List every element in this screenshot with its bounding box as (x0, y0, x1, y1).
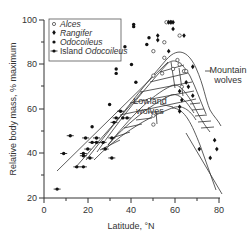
x-tick-labels: 0 20 40 60 80 (41, 205, 224, 215)
data-point-odocoileus (134, 81, 137, 84)
data-point-alces (178, 34, 181, 37)
data-point-alces (160, 72, 163, 75)
lowland-label-2: wolves (135, 106, 164, 116)
ytick-80: 80 (27, 59, 37, 69)
data-point-odocoileus (147, 36, 150, 39)
data-point-rangifer (156, 33, 160, 38)
data-point-odocoileus (108, 103, 111, 106)
trend-lines (57, 62, 222, 194)
data-point-alces (178, 63, 181, 66)
data-point-island-odocoileus (60, 152, 67, 155)
annotations: Mountain wolves Lowland wolves (133, 65, 246, 116)
data-point-rangifer (182, 33, 186, 38)
data-point-rangifer (156, 38, 160, 43)
data-point-rangifer (167, 49, 171, 54)
data-point-island-odocoileus (108, 156, 115, 159)
data-point-alces (184, 69, 187, 72)
data-point-rangifer (191, 93, 195, 98)
y-axis-label: Relative body mass, % maximum (8, 42, 18, 175)
data-point-alces (171, 67, 174, 70)
data-point-island-odocoileus (108, 136, 115, 139)
data-point-island-odocoileus (93, 136, 100, 139)
legend-odocoileus-word: Odocoileus (85, 46, 128, 56)
data-point-island-odocoileus (124, 116, 131, 119)
data-point-island-odocoileus (102, 147, 109, 150)
data-point-rangifer (208, 156, 212, 161)
data-point-rangifer (178, 89, 182, 94)
data-point-alces (152, 74, 155, 77)
data-point-island-odocoileus (80, 165, 87, 168)
data-point-rangifer (213, 138, 217, 143)
data-point-odocoileus (145, 43, 148, 46)
x-axis-label: Latitude, °N (107, 221, 154, 231)
odocoileus-marker-icon (52, 40, 55, 43)
mountain-label-1: Mountain (209, 65, 246, 75)
alces-marker-icon (52, 22, 55, 25)
xtick-60: 60 (170, 205, 180, 215)
data-point-island-odocoileus (54, 187, 61, 190)
ytick-40: 40 (27, 148, 37, 158)
xtick-40: 40 (126, 205, 136, 215)
legend-island-odocoileus: Island Odocoileus (60, 46, 128, 56)
data-point-odocoileus (114, 72, 117, 75)
data-point-alces (147, 98, 150, 101)
data-point-rangifer (178, 104, 182, 109)
data-point-rangifer (187, 84, 191, 89)
data-point-alces (152, 123, 155, 126)
data-point-island-odocoileus (82, 136, 89, 139)
data-point-island-odocoileus (67, 134, 74, 137)
xtick-80: 80 (214, 205, 224, 215)
data-point-odocoileus (132, 25, 135, 28)
body-mass-latitude-chart: 100 80 60 40 20 0 20 40 60 80 Latitude, … (0, 0, 249, 241)
xtick-0: 0 (41, 205, 46, 215)
data-point-odocoileus (114, 67, 117, 70)
data-point-rangifer (191, 64, 195, 69)
data-point-alces (152, 49, 155, 52)
data-point-odocoileus (90, 125, 93, 128)
data-point-alces (152, 114, 155, 117)
ytick-20: 20 (27, 193, 37, 203)
ytick-100: 100 (22, 15, 37, 25)
data-point-rangifer (171, 27, 175, 32)
data-point-alces (176, 58, 179, 61)
data-point-alces (180, 85, 183, 88)
data-point-island-odocoileus (73, 165, 80, 168)
data-point-island-odocoileus (80, 154, 87, 157)
ytick-60: 60 (27, 104, 37, 114)
legend: Alces Rangifer Odocoileus Island Odocoil… (49, 19, 128, 61)
xtick-20: 20 (83, 205, 93, 215)
data-point-alces (163, 41, 166, 44)
data-point-alces (163, 56, 166, 59)
legend-island-word: Island (60, 46, 85, 56)
y-tick-labels: 100 80 60 40 20 (22, 15, 37, 203)
data-point-rangifer (184, 80, 188, 85)
data-point-odocoileus (130, 63, 133, 66)
data-point-rangifer (215, 147, 219, 152)
mountain-label-2: wolves (213, 75, 242, 85)
data-point-island-odocoileus (86, 156, 93, 159)
